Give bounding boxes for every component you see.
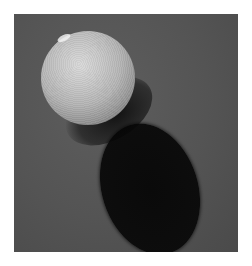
sphere-texture [41,31,135,125]
photo [14,14,238,252]
textured-sphere [41,31,135,125]
